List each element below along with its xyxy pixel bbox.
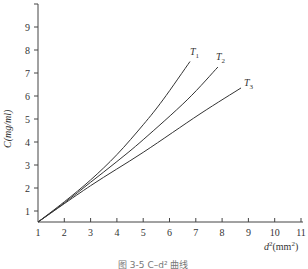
x-tick-label: 3	[88, 227, 93, 238]
y-tick-label: 8	[25, 45, 30, 56]
y-ticks: 123456789	[25, 22, 38, 217]
x-tick-label: 5	[141, 227, 146, 238]
x-axis-label: d2(mm2)	[264, 240, 298, 253]
x-tick-label: 7	[193, 227, 198, 238]
chart: 123456789 1234567891011 C(mg/ml) d2(mm2)…	[0, 0, 308, 269]
figure-caption: 图 3-5 C–d² 曲线	[118, 259, 188, 269]
curve-t1	[38, 62, 190, 223]
y-tick-label: 4	[25, 137, 30, 148]
y-axis-label: C(mg/ml)	[2, 109, 14, 148]
curve-t3	[38, 88, 241, 222]
x-tick-label: 6	[167, 227, 172, 238]
y-tick-label: 5	[25, 114, 30, 125]
x-tick-label: 4	[114, 227, 119, 238]
y-tick-label: 2	[25, 183, 30, 194]
curve-t2	[38, 67, 218, 222]
y-tick-label: 1	[25, 206, 30, 217]
label-t1: T1	[190, 46, 200, 60]
curves	[38, 62, 241, 223]
x-tick-label: 10	[270, 227, 280, 238]
axes	[34, 4, 303, 222]
y-tick-label: 6	[25, 91, 30, 102]
x-tick-label: 8	[220, 227, 225, 238]
x-tick-label: 9	[246, 227, 251, 238]
y-tick-label: 9	[25, 22, 30, 33]
y-tick-label: 7	[25, 68, 30, 79]
label-t2: T2	[216, 51, 226, 65]
y-tick-label: 3	[25, 160, 30, 171]
y-axis	[34, 4, 38, 222]
x-tick-label: 1	[36, 227, 41, 238]
x-tick-label: 11	[296, 227, 306, 238]
x-tick-label: 2	[62, 227, 67, 238]
x-ticks: 1234567891011	[36, 218, 306, 238]
label-t3: T3	[244, 77, 254, 91]
